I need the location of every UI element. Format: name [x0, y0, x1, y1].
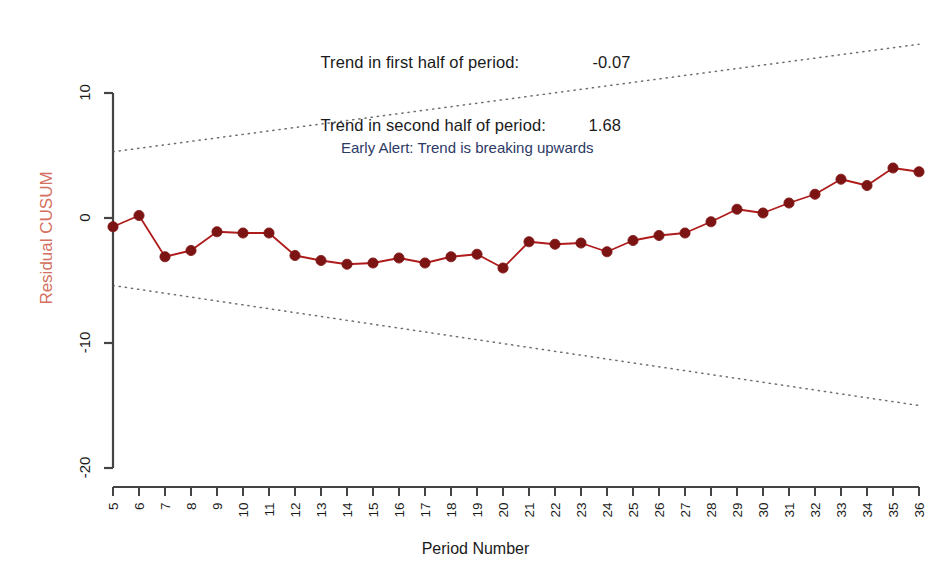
x-tick-label: 13 — [314, 503, 329, 533]
x-tick-label: 20 — [496, 503, 511, 533]
x-tick-label: 15 — [366, 503, 381, 533]
data-point-marker — [706, 217, 716, 227]
data-point-marker — [758, 208, 768, 218]
data-point-marker — [134, 210, 144, 220]
data-point-marker — [810, 189, 820, 199]
data-point-marker — [186, 245, 196, 255]
x-tick-label: 10 — [236, 503, 251, 533]
data-point-marker — [160, 252, 170, 262]
data-point-marker — [914, 167, 924, 177]
data-point-marker — [394, 253, 404, 263]
data-point-marker — [524, 237, 534, 247]
axes — [104, 93, 919, 496]
data-point-marker — [862, 180, 872, 190]
data-point-marker — [550, 239, 560, 249]
x-tick-label: 6 — [132, 503, 147, 533]
x-tick-label: 26 — [652, 503, 667, 533]
plot-area — [0, 0, 951, 583]
series-line — [113, 168, 919, 268]
y-tick-label: -10 — [76, 323, 93, 363]
x-tick-label: 16 — [392, 503, 407, 533]
x-tick-label: 24 — [600, 503, 615, 533]
x-tick-label: 25 — [626, 503, 641, 533]
data-point-marker — [836, 174, 846, 184]
lower-boundary — [113, 286, 919, 406]
data-series — [108, 163, 924, 273]
x-tick-label: 14 — [340, 503, 355, 533]
data-point-marker — [654, 230, 664, 240]
x-tick-label: 35 — [886, 503, 901, 533]
y-tick-label: -20 — [76, 448, 93, 488]
data-point-marker — [368, 258, 378, 268]
x-tick-label: 9 — [210, 503, 225, 533]
x-tick-label: 23 — [574, 503, 589, 533]
x-tick-label: 34 — [860, 503, 875, 533]
x-tick-label: 17 — [418, 503, 433, 533]
data-point-marker — [576, 238, 586, 248]
x-tick-label: 21 — [522, 503, 537, 533]
data-point-marker — [316, 255, 326, 265]
data-point-marker — [498, 263, 508, 273]
data-point-marker — [264, 228, 274, 238]
x-tick-label: 12 — [288, 503, 303, 533]
data-point-marker — [472, 249, 482, 259]
data-point-marker — [342, 259, 352, 269]
data-point-marker — [784, 198, 794, 208]
data-point-marker — [446, 252, 456, 262]
x-tick-label: 36 — [912, 503, 927, 533]
data-point-marker — [680, 228, 690, 238]
x-tick-label: 31 — [782, 503, 797, 533]
data-point-marker — [238, 228, 248, 238]
x-tick-label: 19 — [470, 503, 485, 533]
data-point-marker — [602, 247, 612, 257]
x-tick-label: 7 — [158, 503, 173, 533]
data-point-marker — [628, 235, 638, 245]
x-tick-label: 5 — [106, 503, 121, 533]
y-tick-label: 0 — [76, 198, 93, 238]
x-tick-label: 29 — [730, 503, 745, 533]
upper-boundary — [113, 44, 919, 152]
data-point-marker — [888, 163, 898, 173]
x-tick-label: 28 — [704, 503, 719, 533]
x-tick-label: 22 — [548, 503, 563, 533]
data-point-marker — [212, 227, 222, 237]
x-tick-label: 32 — [808, 503, 823, 533]
x-tick-label: 11 — [262, 503, 277, 533]
residual-cusum-chart: Trend in first half of period:-0.07 Tren… — [0, 0, 951, 583]
x-tick-label: 27 — [678, 503, 693, 533]
data-point-marker — [732, 204, 742, 214]
y-tick-label: 10 — [76, 73, 93, 113]
x-tick-label: 8 — [184, 503, 199, 533]
x-tick-label: 30 — [756, 503, 771, 533]
data-point-marker — [108, 222, 118, 232]
boundary-lines — [113, 44, 919, 405]
x-tick-label: 33 — [834, 503, 849, 533]
data-point-marker — [290, 250, 300, 260]
x-tick-label: 18 — [444, 503, 459, 533]
data-point-marker — [420, 258, 430, 268]
